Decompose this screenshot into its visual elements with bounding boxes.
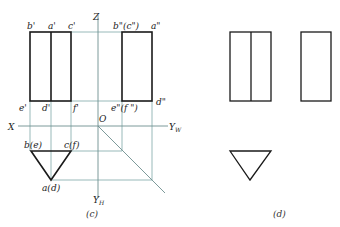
label-e-prime: e' (19, 103, 27, 113)
figure-d-caption: (d) (273, 209, 286, 219)
label-a2: a" (151, 21, 161, 31)
label-c-prime: c' (68, 21, 76, 31)
side-view-rect (122, 32, 152, 101)
label-f-prime: f' (72, 103, 79, 113)
z-axis-label: Z (92, 12, 100, 22)
yh-axis-label: YH (93, 195, 105, 206)
label-b-prime: b' (27, 21, 35, 31)
label-b-e: b(e) (24, 140, 43, 150)
label-c-f: c(f) (64, 140, 80, 150)
miter-line (98, 126, 165, 193)
label-e2-f2: e"(f ") (111, 103, 138, 113)
origin-label: O (99, 114, 107, 124)
label-a-d: a(d) (42, 183, 61, 193)
figure-c: Z X O YW YH b' a' c' e' d' f' b"(c") a" … (7, 12, 182, 219)
top-view-triangle-d (230, 151, 271, 180)
label-a-prime: a' (48, 21, 56, 31)
figure-c-caption: (c) (86, 209, 99, 219)
projection-diagram: Z X O YW YH b' a' c' e' d' f' b"(c") a" … (0, 0, 340, 227)
figure-d: (d) (230, 32, 331, 219)
yw-axis-label: YW (169, 122, 182, 133)
label-b2-c2: b"(c") (113, 21, 140, 31)
label-d-prime: d' (42, 103, 50, 113)
label-d2: d" (156, 97, 166, 107)
x-axis-label: X (7, 122, 15, 132)
side-view-rect-d (301, 32, 331, 101)
